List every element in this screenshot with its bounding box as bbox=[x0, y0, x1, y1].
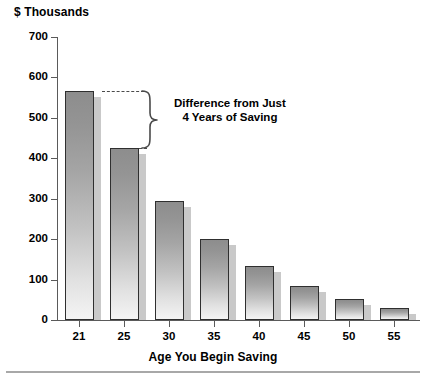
x-tick-mark bbox=[349, 321, 350, 327]
y-tick-label: 100 bbox=[8, 274, 48, 286]
x-axis-title: Age You Begin Saving bbox=[0, 350, 426, 364]
y-tick-mark bbox=[51, 37, 58, 38]
plot-area: 700 600 500 400 300 200 100 0 bbox=[0, 0, 426, 378]
y-tick-mark bbox=[51, 239, 58, 240]
x-tick-mark bbox=[214, 321, 215, 327]
bar-50 bbox=[335, 299, 364, 320]
y-tick-label: 400 bbox=[8, 152, 48, 164]
y-axis-line bbox=[57, 37, 58, 321]
x-tick-label-35: 35 bbox=[194, 331, 234, 343]
bar-chart: $ Thousands 700 600 500 400 300 200 100 … bbox=[0, 0, 426, 378]
y-tick-mark bbox=[51, 118, 58, 119]
x-tick-mark bbox=[259, 321, 260, 327]
bar-45 bbox=[290, 286, 319, 320]
bar-25 bbox=[110, 148, 139, 320]
bar-55 bbox=[380, 308, 409, 320]
y-tick-label: 300 bbox=[8, 193, 48, 205]
y-tick-mark bbox=[51, 320, 58, 321]
x-tick-mark bbox=[79, 321, 80, 327]
curly-brace-icon bbox=[140, 80, 166, 160]
y-tick-label: 600 bbox=[8, 71, 48, 83]
x-tick-label-30: 30 bbox=[149, 331, 189, 343]
x-axis-line bbox=[57, 320, 420, 321]
y-tick-label: 0 bbox=[8, 314, 48, 326]
bar-30 bbox=[155, 201, 184, 320]
x-tick-mark bbox=[394, 321, 395, 327]
x-tick-label-45: 45 bbox=[284, 331, 324, 343]
callout-line-2: 4 Years of Saving bbox=[174, 110, 286, 124]
y-tick-label: 200 bbox=[8, 233, 48, 245]
y-tick-mark bbox=[51, 280, 58, 281]
x-tick-label-40: 40 bbox=[239, 331, 279, 343]
x-tick-label-55: 55 bbox=[374, 331, 414, 343]
x-tick-label-50: 50 bbox=[329, 331, 369, 343]
bar-35 bbox=[200, 239, 229, 320]
x-tick-label-21: 21 bbox=[59, 331, 99, 343]
y-tick-mark bbox=[51, 77, 58, 78]
x-tick-mark bbox=[124, 321, 125, 327]
difference-callout: Difference from Just 4 Years of Saving bbox=[88, 80, 338, 158]
y-tick-label: 500 bbox=[8, 112, 48, 124]
x-tick-mark bbox=[169, 321, 170, 327]
y-tick-mark bbox=[51, 158, 58, 159]
bar-40 bbox=[245, 266, 274, 320]
callout-dashed-line-top bbox=[102, 91, 144, 92]
footer-divider bbox=[6, 371, 420, 373]
y-tick-label: 700 bbox=[8, 31, 48, 43]
y-tick-mark bbox=[51, 199, 58, 200]
callout-line-1: Difference from Just bbox=[174, 96, 286, 110]
x-tick-mark bbox=[304, 321, 305, 327]
x-tick-label-25: 25 bbox=[104, 331, 144, 343]
callout-text: Difference from Just 4 Years of Saving bbox=[174, 96, 286, 124]
